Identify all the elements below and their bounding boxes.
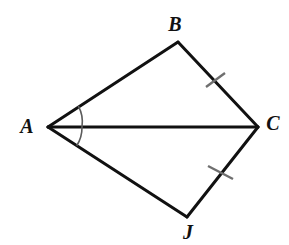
- angle-arc-bac-icon: [78, 106, 82, 127]
- segment-cj: [187, 127, 258, 217]
- segment-aj: [48, 127, 187, 217]
- angle-arc-caj-icon: [77, 127, 82, 146]
- tick-mark-cj-icon: [208, 166, 233, 179]
- vertex-label-b: B: [167, 13, 181, 35]
- vertex-label-a: A: [18, 115, 33, 137]
- segment-bc: [178, 42, 258, 127]
- segment-ab: [48, 42, 178, 127]
- segment-group: [48, 42, 258, 217]
- vertex-label-j: J: [182, 221, 194, 243]
- vertex-label-c: C: [266, 112, 280, 134]
- geometry-canvas: A B C J: [0, 0, 289, 245]
- geometry-figure: A B C J: [0, 0, 289, 245]
